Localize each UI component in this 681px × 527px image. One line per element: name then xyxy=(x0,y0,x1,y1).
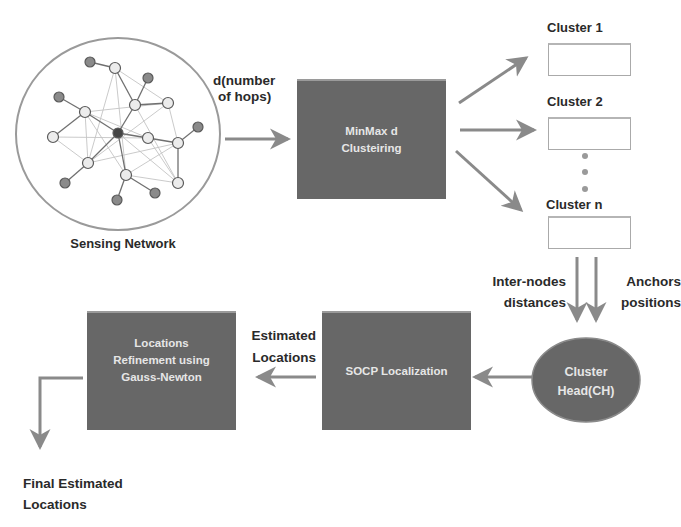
refinement-box: Locations Refinement using Gauss-Newton xyxy=(87,311,236,430)
inter-nodes-line2: distances xyxy=(466,292,566,313)
hops-label: d(number of hops) xyxy=(213,73,275,105)
anchor-node xyxy=(193,122,203,132)
arrow-refinement-to-final xyxy=(40,378,83,447)
anchor-node xyxy=(54,92,64,102)
anchors-line2: positions xyxy=(600,292,681,313)
anchor-node xyxy=(150,188,160,198)
cluster-head-line2: Head(CH) xyxy=(532,382,640,401)
clustering-line2: Clusteiring xyxy=(341,140,401,157)
cluster-2-box xyxy=(548,117,631,150)
sensor-node xyxy=(110,63,121,74)
refinement-line3: Gauss-Newton xyxy=(113,369,209,386)
anchors-positions-label: Anchors positions xyxy=(600,271,681,313)
final-estimated-locations-label: Final Estimated Locations xyxy=(23,473,123,515)
ellipsis-dots xyxy=(582,153,588,192)
sensing-network-label: Sensing Network xyxy=(63,236,183,252)
minmax-clustering-box: MinMax d Clusteiring xyxy=(297,79,446,199)
sensor-node xyxy=(48,132,59,143)
anchor-node xyxy=(60,178,70,188)
clustering-line1: MinMax d xyxy=(341,123,401,140)
anchor-node xyxy=(85,57,95,67)
cluster-n-box xyxy=(548,216,631,249)
anchor-node xyxy=(143,73,153,83)
socp-localization-box: SOCP Localization xyxy=(322,311,471,430)
sensor-node xyxy=(83,158,94,169)
arrow-to-cluster-n xyxy=(456,151,521,210)
inter-nodes-distances-label: Inter-nodes distances xyxy=(466,271,566,313)
refinement-line2: Refinement using xyxy=(113,352,209,369)
sensor-node xyxy=(143,133,154,144)
arrow-to-cluster-1 xyxy=(459,58,526,103)
cluster-head-line1: Cluster xyxy=(532,363,640,382)
cluster-n-label: Cluster n xyxy=(546,197,602,213)
hops-label-line1: d(number xyxy=(213,73,275,89)
estimated-locations-label: Estimated Locations xyxy=(240,325,316,369)
cluster-1-box xyxy=(548,43,631,76)
cluster-head-text: Cluster Head(CH) xyxy=(532,363,640,401)
sensor-node xyxy=(80,107,91,118)
refinement-line1: Locations xyxy=(113,335,209,352)
cluster-1-label: Cluster 1 xyxy=(547,20,603,36)
sensor-node xyxy=(173,138,184,149)
anchors-line1: Anchors xyxy=(600,271,681,292)
sensor-node xyxy=(130,100,141,111)
sensor-node xyxy=(121,170,132,181)
final-line1: Final Estimated xyxy=(23,473,123,494)
inter-nodes-line1: Inter-nodes xyxy=(466,271,566,292)
cluster-2-label: Cluster 2 xyxy=(547,94,603,110)
socp-label: SOCP Localization xyxy=(345,363,447,380)
sensor-node xyxy=(163,98,174,109)
estimated-line2: Locations xyxy=(240,347,316,369)
center-node xyxy=(113,128,123,138)
hops-label-line2: of hops) xyxy=(213,89,275,105)
sensor-node xyxy=(173,178,184,189)
anchor-node xyxy=(112,195,122,205)
final-line2: Locations xyxy=(23,494,123,515)
estimated-line1: Estimated xyxy=(240,325,316,347)
